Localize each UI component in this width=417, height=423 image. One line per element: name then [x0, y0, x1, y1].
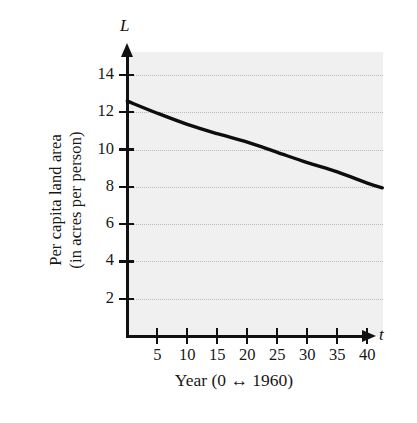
series-line-per-capita-land-area	[127, 101, 382, 188]
chart-figure: Per capita land area (in acres per perso…	[0, 0, 417, 423]
data-curve-layer	[0, 0, 417, 423]
x-axis-title: Year (0 ↔ 1960)	[104, 370, 364, 391]
